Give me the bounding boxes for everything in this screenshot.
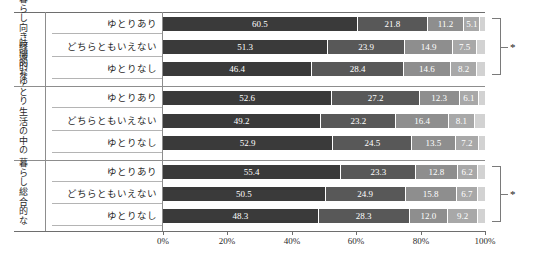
significance-marker-1: *	[510, 42, 516, 53]
bar-segment-3: 12.0	[410, 209, 449, 223]
row-label-underline	[52, 130, 162, 131]
bar-segment-1: 51.3	[163, 40, 328, 54]
bar-segment-4: 8.2	[451, 62, 477, 76]
x-axis-tick	[356, 231, 357, 235]
bar-segment-1: 52.6	[163, 91, 332, 105]
bar-segment-1: 50.5	[163, 187, 326, 201]
bar-row-2-2: 49.223.216.48.1	[163, 114, 485, 128]
bar-segment-4: 5.1	[464, 17, 480, 31]
group-label-line: 時間的なゆとり	[17, 39, 28, 106]
bar-segment-2: 24.5	[333, 136, 412, 150]
group-label-3: 総合的な暮らし	[17, 166, 28, 225]
bar-segment-5	[475, 114, 485, 128]
bar-segment-3: 13.5	[412, 136, 455, 150]
bar-segment-2: 28.3	[319, 209, 410, 223]
row-label-wrap: ゆとりなし	[45, 60, 162, 78]
row-label-underline	[52, 203, 162, 204]
group-label-line: 総合的な	[17, 187, 28, 225]
x-axis-tick	[163, 231, 164, 235]
group-label-line: 生活の中の	[17, 107, 28, 155]
bar-segment-3: 12.3	[420, 91, 460, 105]
x-axis-tick-label: 20%	[219, 236, 236, 246]
bar-row-3-3: 48.328.312.09.2	[163, 209, 485, 223]
x-axis-tick-label: 100%	[475, 236, 496, 246]
x-axis-tick	[485, 231, 486, 235]
row-label-underline	[52, 56, 162, 57]
row-label-underline	[52, 225, 162, 226]
row-label-wrap: どちらともいえない	[45, 185, 162, 203]
bar-segment-2: 23.9	[328, 40, 405, 54]
bar-segment-4: 7.5	[453, 40, 477, 54]
bar-segment-3: 16.4	[396, 114, 449, 128]
group-label-line: 暮らし向き	[17, 0, 28, 41]
row-label-wrap: ゆとりあり	[45, 89, 162, 107]
bar-row-2-1: 52.627.212.36.1	[163, 91, 485, 105]
x-axis-tick-label: 0%	[157, 236, 169, 246]
bar-row-3-2: 50.524.915.86.7	[163, 187, 485, 201]
row-label-underline	[52, 33, 162, 34]
bar-segment-2: 21.8	[358, 17, 428, 31]
group-separator-3	[14, 160, 485, 161]
row-label-wrap: ゆとりあり	[45, 163, 162, 181]
bar-segment-1: 60.5	[163, 17, 358, 31]
row-label-1-1: ゆとりあり	[44, 15, 162, 33]
bar-segment-5	[480, 17, 485, 31]
bar-segment-3: 11.2	[428, 17, 464, 31]
row-label-3-1: ゆとりあり	[44, 163, 162, 181]
bar-segment-4: 6.2	[458, 165, 478, 179]
significance-bracket-1	[492, 18, 501, 75]
bar-segment-5	[479, 91, 485, 105]
bar-row-1-2: 51.323.914.97.5	[163, 40, 485, 54]
bar-segment-5	[477, 62, 485, 76]
bar-segment-2: 24.9	[326, 187, 406, 201]
bar-segment-5	[477, 40, 485, 54]
row-label-wrap: どちらともいえない	[45, 112, 162, 130]
significance-bracket-3	[492, 166, 501, 222]
row-label-wrap: どちらともいえない	[45, 38, 162, 56]
x-axis-tick	[421, 231, 422, 235]
row-label-1-3: ゆとりなし	[44, 60, 162, 78]
row-label-3-2: どちらともいえない	[44, 185, 162, 203]
bar-segment-1: 55.4	[163, 165, 341, 179]
bar-segment-5	[478, 165, 485, 179]
bar-segment-4: 7.2	[456, 136, 479, 150]
chart-top-border	[14, 12, 485, 13]
row-label-underline	[52, 107, 162, 108]
bar-segment-4: 6.1	[460, 91, 480, 105]
bar-segment-1: 49.2	[163, 114, 321, 128]
bar-segment-3: 14.9	[405, 40, 453, 54]
row-label-underline	[52, 152, 162, 153]
x-axis-tick	[227, 231, 228, 235]
x-axis-tick-label: 60%	[348, 236, 365, 246]
bar-segment-1: 46.4	[163, 62, 312, 76]
group-separator-2	[14, 86, 485, 87]
group-label-line: 暮らし	[17, 158, 28, 187]
significance-bracket-stem	[501, 47, 508, 48]
bar-segment-5	[478, 209, 485, 223]
row-label-2-1: ゆとりあり	[44, 89, 162, 107]
bar-segment-2: 23.3	[341, 165, 416, 179]
bar-segment-4: 9.2	[448, 209, 478, 223]
bar-segment-4: 8.1	[449, 114, 475, 128]
x-axis-tick	[292, 231, 293, 235]
x-axis-line	[163, 231, 485, 232]
bar-row-1-1: 60.521.811.25.1	[163, 17, 485, 31]
bar-segment-2: 27.2	[332, 91, 420, 105]
bar-segment-3: 14.6	[404, 62, 451, 76]
group-label-2: 生活の中の時間的なゆとり	[17, 92, 28, 154]
significance-marker-3: *	[510, 189, 516, 200]
row-label-wrap: ゆとりなし	[45, 134, 162, 152]
row-label-3-3: ゆとりなし	[44, 207, 162, 225]
bar-segment-2: 28.4	[312, 62, 403, 76]
row-label-2-3: ゆとりなし	[44, 134, 162, 152]
bar-segment-1: 48.3	[163, 209, 319, 223]
bar-segment-5	[478, 187, 485, 201]
bar-row-1-3: 46.428.414.68.2	[163, 62, 485, 76]
bar-row-2-3: 52.924.513.57.2	[163, 136, 485, 150]
x-axis-tick-label: 80%	[413, 236, 430, 246]
bar-segment-3: 15.8	[406, 187, 457, 201]
row-label-wrap: ゆとりあり	[45, 15, 162, 33]
bar-segment-2: 23.2	[321, 114, 396, 128]
x-axis-tick-label: 40%	[284, 236, 301, 246]
bar-row-3-1: 55.423.312.86.2	[163, 165, 485, 179]
